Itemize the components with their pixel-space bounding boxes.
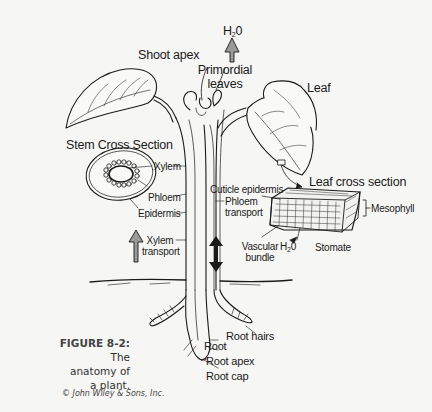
- figure-caption: FIGURE 8-2: The anatomy of a plant.: [60, 336, 130, 392]
- figure-number: FIGURE 8-2:: [60, 336, 130, 350]
- label-phloem-transport: Phloem transport: [225, 196, 263, 218]
- label-epidermis: Epidermis: [138, 208, 181, 219]
- label-water-stomate: H20: [280, 241, 296, 255]
- copyright-credit: © John Wiley & Sons, Inc.: [62, 389, 164, 398]
- left-leaf-drawing: [66, 69, 176, 128]
- plant-anatomy-figure: Shoot apex Primordial leaves H20 Leaf St…: [0, 0, 432, 412]
- label-shoot-apex: Shoot apex: [138, 48, 199, 62]
- label-root: Root: [204, 340, 226, 352]
- label-root-cap: Root cap: [206, 370, 248, 382]
- ground-line: [90, 279, 292, 282]
- label-cuticle-epidermis: Cuticle epidermis: [210, 184, 283, 195]
- label-root-hairs: Root hairs: [226, 330, 274, 342]
- label-vascular-bundle: Vascular bundle: [238, 241, 282, 263]
- label-water-top: H20: [223, 24, 242, 42]
- label-stomate: Stomate: [315, 242, 351, 253]
- label-xylem-transport: Xylem transport: [142, 235, 178, 257]
- label-leaf: Leaf: [307, 81, 331, 95]
- leaf-cross-section-drawing: [262, 188, 370, 243]
- label-xylem: Xylem: [154, 161, 181, 172]
- up-arrow-xylem-icon: [129, 230, 143, 262]
- up-down-arrow-phloem-icon: [209, 236, 223, 272]
- label-leaf-cross-section: Leaf cross section: [309, 175, 406, 189]
- label-root-apex: Root apex: [206, 355, 254, 367]
- right-leaf-drawing: [247, 81, 317, 188]
- label-primordial-leaves: Primordial leaves: [190, 63, 260, 91]
- label-phloem: Phloem: [148, 192, 181, 203]
- label-stem-cross-section: Stem Cross Section: [66, 138, 173, 152]
- label-mesophyll: Mesophyll: [371, 203, 414, 214]
